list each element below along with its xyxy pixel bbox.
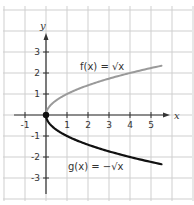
f-curve-label: f(x) = √x	[80, 61, 124, 72]
y-tick-label: -1	[31, 131, 40, 141]
y-axis-arrow-icon	[44, 33, 49, 40]
y-tick-label: 1	[34, 89, 40, 99]
x-axis-title: x	[174, 110, 180, 121]
x-tick-label: 5	[148, 120, 154, 130]
y-tick-label: 3	[34, 47, 40, 57]
origin-point	[43, 112, 49, 118]
g-curve-label: g(x) = −√x	[68, 161, 124, 172]
y-axis-title: y	[39, 20, 46, 31]
y-tick-label: -2	[31, 152, 40, 162]
x-tick-label: 4	[127, 120, 133, 130]
x-tick-label: -1	[21, 120, 30, 130]
y-tick-label: 2	[34, 68, 40, 78]
function-graph: -112345-3-2-1123 x y f(x) = √x g(x) = −√…	[0, 0, 194, 205]
y-tick-label: -3	[31, 173, 40, 183]
x-tick-label: 2	[85, 120, 91, 130]
x-tick-label: 3	[106, 120, 112, 130]
x-axis-arrow-icon	[163, 113, 170, 118]
x-tick-label: 1	[64, 120, 70, 130]
